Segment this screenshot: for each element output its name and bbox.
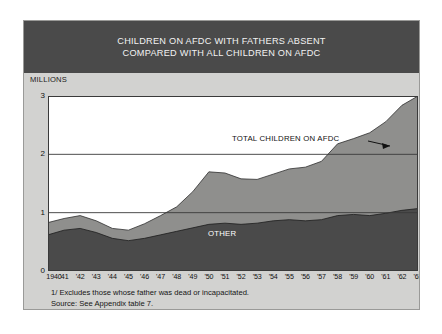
y-axis-tick-0: 0 (25, 266, 45, 275)
x-axis-tick-1958: '58 (333, 273, 342, 281)
chart-figure: CHILDREN ON AFDC WITH FATHERS ABSENT COM… (23, 20, 420, 310)
x-axis-tick-1948: '48 (172, 273, 181, 281)
x-axis-tick-1957: '57 (317, 273, 326, 281)
y-axis-tick-1: 1 (25, 208, 45, 217)
annotation-total-children: TOTAL CHILDREN ON AFDC (232, 134, 339, 143)
x-axis-tick-1945: '45 (124, 273, 133, 281)
x-axis-tick-1954: '54 (269, 273, 278, 281)
x-axis-tick-1959: '59 (349, 273, 358, 281)
footnote-source: Source: See Appendix table 7. (51, 298, 249, 309)
x-axis-tick-1951: '51 (220, 273, 229, 281)
footnote-1: 1/ Excludes those whose father was dead … (51, 287, 249, 298)
x-axis-tick-1949: '49 (188, 273, 197, 281)
annotation-other: OTHER (208, 229, 236, 238)
x-axis-tick-1961: '61 (381, 273, 390, 281)
x-axis-tick-1943: '43 (92, 273, 101, 281)
x-axis-tick-labels: 1940'41'42'43'44'45'46'47'48'49'50'51'52… (48, 273, 420, 285)
x-axis-tick-1956: '56 (301, 273, 310, 281)
y-axis-tick-labels: 0123 (24, 96, 45, 271)
x-axis-tick-1947: '47 (156, 273, 165, 281)
x-axis-tick-1952: '52 (237, 273, 246, 281)
x-axis-tick-1953: '53 (253, 273, 262, 281)
y-axis-units-label: MILLIONS (30, 75, 67, 84)
x-axis-tick-1942: '42 (76, 273, 85, 281)
plot-area: TOTAL CHILDREN ON AFDC OTHER (48, 96, 418, 271)
chart-footnotes: 1/ Excludes those whose father was dead … (51, 287, 249, 309)
area-chart-svg (48, 96, 418, 271)
x-axis-tick-1941: '41 (60, 273, 69, 281)
chart-title-band: CHILDREN ON AFDC WITH FATHERS ABSENT COM… (24, 21, 419, 73)
y-axis-tick-3: 3 (25, 91, 45, 100)
x-axis-tick-1946: '46 (140, 273, 149, 281)
x-axis-tick-1962: '62 (397, 273, 406, 281)
x-axis-tick-1950: '50 (204, 273, 213, 281)
x-axis-tick-1944: '44 (108, 273, 117, 281)
y-axis-tick-2: 2 (25, 149, 45, 158)
x-axis-tick-1955: '55 (285, 273, 294, 281)
chart-title-line-2: COMPARED WITH ALL CHILDREN ON AFDC (123, 47, 321, 60)
x-axis-tick-1960: '60 (365, 273, 374, 281)
chart-title-line-1: CHILDREN ON AFDC WITH FATHERS ABSENT (117, 35, 325, 48)
x-axis-tick-1963: '63 (414, 273, 420, 281)
chart-body: MILLIONS 0123 TOTAL CHILDREN ON (24, 73, 419, 310)
